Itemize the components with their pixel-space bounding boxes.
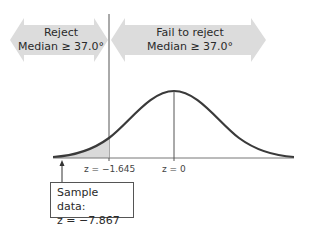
critical-value-label: z = −1.645 [84,164,135,174]
sample-data-value: z = −7.867 [57,214,127,228]
fail-to-reject-label: Fail to reject Median ≥ 37.0° [120,26,260,54]
rejection-tail-shading [53,138,109,158]
fail-to-reject-condition: Median ≥ 37.0° [120,40,260,54]
sample-pointer-arrowhead [60,160,65,166]
center-value-label: z = 0 [162,164,186,174]
reject-label: Reject Median ≥ 37.0° [14,26,108,54]
reject-title: Reject [14,26,108,40]
reject-condition: Median ≥ 37.0° [14,40,108,54]
fail-to-reject-title: Fail to reject [120,26,260,40]
sample-data-box: Sample data: z = −7.867 [50,182,134,218]
sample-data-title: Sample data: [57,186,127,214]
